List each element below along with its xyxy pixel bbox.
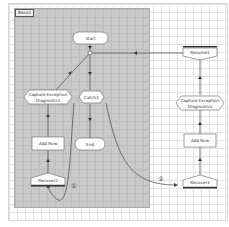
node-end[interactable]: End xyxy=(75,138,105,150)
annotation-marker-1: ① xyxy=(71,182,76,189)
node-resume1[interactable]: Resume1 xyxy=(183,46,217,60)
node-recover2[interactable]: Recover2 xyxy=(31,173,65,187)
svg-text:Add Row: Add Row xyxy=(39,141,58,146)
node-start[interactable]: Start xyxy=(73,32,108,44)
svg-text:Start: Start xyxy=(85,36,96,41)
junction-node xyxy=(88,51,92,55)
node-add-row-left[interactable]: Add Row xyxy=(32,137,64,150)
svg-text:Diagnostics: Diagnostics xyxy=(188,104,212,109)
svg-text:Diagnostics: Diagnostics xyxy=(36,98,60,103)
svg-text:Capture Exception: Capture Exception xyxy=(29,92,68,97)
svg-text:Add Row: Add Row xyxy=(191,138,210,143)
svg-text:Recover1: Recover1 xyxy=(190,180,210,185)
node-capture-exception-left[interactable]: Capture Exception Diagnostics xyxy=(24,90,72,104)
svg-text:Capture Exception: Capture Exception xyxy=(181,98,220,103)
node-capture-exception-right[interactable]: Capture Exception Diagnostics xyxy=(176,96,224,110)
flow-diagram: Start Catch1 End Capture Exception Diagn… xyxy=(0,0,229,227)
svg-text:Resume1: Resume1 xyxy=(190,50,210,55)
connectors xyxy=(48,44,200,200)
svg-text:Catch1: Catch1 xyxy=(84,95,99,100)
node-catch1[interactable]: Catch1 xyxy=(79,91,104,103)
svg-text:End: End xyxy=(86,142,94,147)
node-add-row-right[interactable]: Add Row xyxy=(184,134,216,147)
svg-text:Recover2: Recover2 xyxy=(38,178,58,183)
node-recover1[interactable]: Recover1 xyxy=(183,175,217,189)
annotation-marker-2: ② xyxy=(158,175,163,182)
